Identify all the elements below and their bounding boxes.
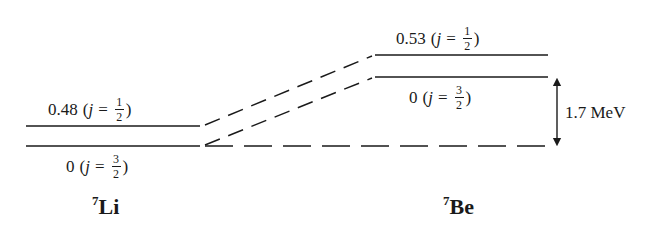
paren: ) bbox=[123, 158, 129, 175]
numerator: 1 bbox=[116, 96, 122, 108]
denominator: 2 bbox=[113, 168, 119, 180]
j-symbol: j bbox=[436, 30, 441, 47]
be-nucleus-label: 7Be bbox=[443, 194, 474, 218]
excited-connector-dashed bbox=[205, 56, 372, 125]
paren: ) bbox=[466, 89, 472, 106]
energy-value: 0 bbox=[66, 158, 75, 175]
equals-sign: = bbox=[95, 158, 105, 175]
ground-connector-dashed bbox=[205, 78, 372, 145]
denominator: 2 bbox=[456, 99, 462, 111]
denominator: 2 bbox=[464, 40, 470, 52]
energy-value: 0 bbox=[409, 89, 418, 106]
j-symbol: j bbox=[88, 101, 93, 118]
spin-fraction: 1 2 bbox=[463, 25, 472, 52]
equals-sign: = bbox=[98, 101, 108, 118]
energy-value: 0.53 bbox=[396, 30, 426, 47]
denominator: 2 bbox=[116, 111, 122, 123]
numerator: 3 bbox=[113, 153, 119, 165]
li-ground-level-label: 0 ( j = 3 2 ) bbox=[66, 153, 128, 180]
spin-fraction: 3 2 bbox=[455, 84, 464, 111]
spin-fraction: 3 2 bbox=[112, 153, 121, 180]
energy-gap-label: 1.7 MeV bbox=[565, 104, 625, 121]
paren: ) bbox=[474, 30, 480, 47]
be-ground-level-label: 0 ( j = 3 2 ) bbox=[409, 84, 471, 111]
li-nucleus-label: 7Li bbox=[92, 194, 119, 218]
li-excited-level-label: 0.48 ( j = 1 2 ) bbox=[48, 96, 131, 123]
numerator: 1 bbox=[464, 25, 470, 37]
energy-value: 0.48 bbox=[48, 101, 78, 118]
be-excited-level-label: 0.53 ( j = 1 2 ) bbox=[396, 25, 479, 52]
paren: ) bbox=[126, 101, 132, 118]
element-symbol: Be bbox=[450, 194, 474, 219]
equals-sign: = bbox=[446, 30, 456, 47]
spin-fraction: 1 2 bbox=[115, 96, 124, 123]
element-symbol: Li bbox=[99, 194, 120, 219]
j-symbol: j bbox=[428, 89, 433, 106]
equals-sign: = bbox=[438, 89, 448, 106]
j-symbol: j bbox=[85, 158, 90, 175]
numerator: 3 bbox=[456, 84, 462, 96]
